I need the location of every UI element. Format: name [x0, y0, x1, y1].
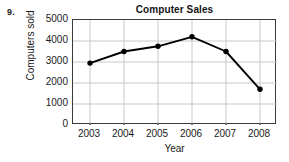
- data-point-2004: [121, 49, 126, 54]
- x-axis-title: Year: [72, 143, 277, 154]
- data-series-line: [90, 37, 260, 90]
- data-point-2008: [257, 87, 262, 92]
- line-chart-figure: Computer Sales Computers sold 5000 4000 …: [0, 0, 289, 162]
- vertical-gridlines: [90, 20, 260, 125]
- y-tick-label: 3000: [34, 56, 68, 66]
- data-point-2005: [155, 44, 160, 49]
- y-tick-label: 5000: [34, 14, 68, 24]
- x-tick-label: 2008: [239, 128, 279, 139]
- x-axis-ticks: [90, 123, 260, 125]
- plot-area: [72, 19, 276, 124]
- data-point-2003: [87, 60, 92, 65]
- data-point-2006: [189, 34, 194, 39]
- y-tick-label: 2000: [34, 77, 68, 87]
- data-point-2007: [223, 49, 228, 54]
- plot-svg: [73, 20, 277, 125]
- chart-title: Computer Sales: [72, 4, 277, 15]
- y-axis-tick-labels: 5000 4000 3000 2000 1000 0: [30, 19, 68, 124]
- y-tick-label: 1000: [34, 98, 68, 108]
- x-axis-tick-labels: 2003 2004 2005 2006 2007 2008: [72, 128, 276, 142]
- horizontal-gridlines: [73, 41, 277, 104]
- y-tick-label: 0: [34, 119, 68, 129]
- worksheet-page: 9. Computer Sales Computers sold 5000 40…: [0, 0, 289, 162]
- y-tick-label: 4000: [34, 35, 68, 45]
